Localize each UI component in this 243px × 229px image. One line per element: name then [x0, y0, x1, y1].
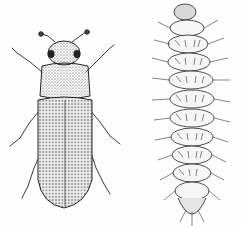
beetle-drawing: [0, 0, 130, 229]
larva-figure: [130, 0, 243, 229]
larva-drawing: [130, 0, 243, 229]
illustration-canvas: [0, 0, 243, 229]
adult-beetle-figure: [0, 0, 130, 229]
